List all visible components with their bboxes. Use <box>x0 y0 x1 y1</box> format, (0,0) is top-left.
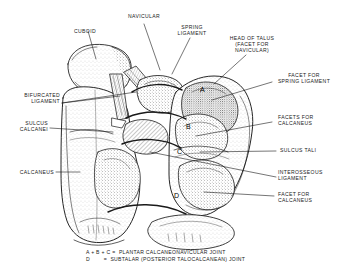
talus-inferior-fragment <box>148 215 235 250</box>
calcaneus-bone <box>61 87 140 245</box>
label-facet-for-spring-ligament: FACET FOR SPRING LIGAMENT <box>266 72 342 84</box>
talus-bone <box>169 76 253 216</box>
legend-line-joint-a-b-c: A + B + C = PLANTAR CALCANEONAVICULAR JO… <box>86 249 226 256</box>
label-facets-for-calcaneus: FACETS FOR CALCANEUS <box>278 114 344 126</box>
marker-d: D <box>174 192 179 199</box>
label-facet-for-calcaneus: FACET FOR CALCANEUS <box>278 191 342 203</box>
label-interosseous-ligament: INTEROSSEOUS LIGAMENT <box>278 169 344 181</box>
legend-line-joint-d: D = SUBTALAR (POSTERIOR TALOCALCANEAN) J… <box>86 256 245 263</box>
label-cuboid: CUBOID <box>58 28 112 34</box>
label-sulcus-tali: SULCUS TALI <box>280 147 342 153</box>
marker-b: B <box>186 123 191 130</box>
middle-facet-hatched <box>123 120 168 155</box>
marker-c: C <box>177 148 182 155</box>
label-spring-ligament: SPRING LIGAMENT <box>166 24 218 36</box>
label-sulcus-calcanei: SULCUS CALCANEI <box>0 120 48 132</box>
marker-a: A <box>200 86 205 93</box>
label-head-of-talus: HEAD OF TALUS (FACET FOR NAVICULAR) <box>216 35 288 54</box>
bone-illustration <box>0 0 344 270</box>
label-calcaneus: CALCANEUS <box>2 169 54 175</box>
label-navicular: NAVICULAR <box>112 13 176 19</box>
anatomical-figure: CUBOID NAVICULAR SPRING LIGAMENT HEAD OF… <box>0 0 344 270</box>
label-bifurcated-ligament: BIFURCATED LIGAMENT <box>2 92 60 104</box>
